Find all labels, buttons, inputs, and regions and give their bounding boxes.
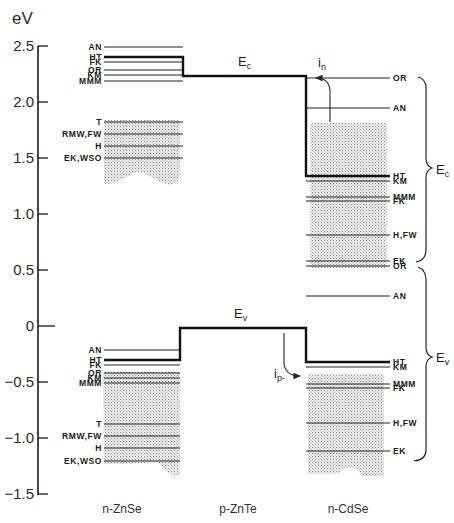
band-diagram-svg: eV 2.52.01.51.00.50−0.5−1.0−1.5 ANHTFKOR… xyxy=(0,0,454,523)
band-diagram: eV 2.52.01.51.00.50−0.5−1.0−1.5 ANHTFKOR… xyxy=(0,0,454,523)
material-label-cdse: n-CdSe xyxy=(328,502,369,516)
y-axis-tick-label: 0 xyxy=(26,317,34,334)
ev-brace xyxy=(414,267,432,461)
energy-level-label: EK,WSO xyxy=(64,456,102,466)
electron-current-arrow xyxy=(316,78,330,122)
ec-brace-label: Ec xyxy=(436,162,450,179)
y-axis-tick-label: 2.0 xyxy=(13,93,34,110)
energy-level-label: H,FW xyxy=(393,230,417,240)
y-axis-tick-label: −1.5 xyxy=(4,485,34,502)
energy-level-label: AN xyxy=(393,103,406,113)
ev-label: Ev xyxy=(234,306,248,323)
y-axis-ticks: 2.52.01.51.00.50−0.5−1.0−1.5 xyxy=(4,37,55,502)
shaded-cdse-lower xyxy=(308,374,384,476)
energy-level-label: AN xyxy=(89,42,102,52)
ec-brace xyxy=(416,77,432,262)
energy-level-label: KM xyxy=(393,176,407,186)
energy-level-label: FK xyxy=(393,383,406,393)
energy-level-label: MMM xyxy=(79,378,102,388)
ip-label: ip- xyxy=(274,366,285,383)
valence-band-edge xyxy=(104,328,390,362)
energy-level-label: T xyxy=(96,117,102,127)
energy-level-label: H xyxy=(95,141,102,151)
energy-level-label: RMW,FW xyxy=(62,431,102,441)
energy-level-label: OR xyxy=(393,261,407,271)
energy-level-label: EK,WSO xyxy=(64,153,102,163)
y-axis-tick-label: −0.5 xyxy=(4,373,34,390)
shaded-cdse-upper xyxy=(310,123,387,268)
material-label-znte: p-ZnTe xyxy=(219,502,257,516)
energy-level-label: T xyxy=(96,419,102,429)
in-label: in xyxy=(318,55,326,72)
energy-level-label: EK xyxy=(393,446,406,456)
ev-brace-label: Ev xyxy=(436,350,450,367)
axis-unit-label: eV xyxy=(12,9,33,28)
energy-level-label: MMM xyxy=(79,76,102,86)
y-axis-tick-label: 1.0 xyxy=(13,205,34,222)
y-axis: 2.52.01.51.00.50−0.5−1.0−1.5 xyxy=(4,37,55,502)
y-axis-tick-label: −1.0 xyxy=(4,429,34,446)
y-axis-tick-label: 1.5 xyxy=(13,149,34,166)
energy-level-label: H xyxy=(95,443,102,453)
energy-level-label: KM xyxy=(393,362,407,372)
shaded-znse-upper xyxy=(104,120,180,184)
energy-level-label: OR xyxy=(393,73,407,83)
hole-current-arrow xyxy=(284,333,300,376)
energy-level-label: RMW,FW xyxy=(62,129,102,139)
energy-level-label: H,FW xyxy=(393,418,417,428)
y-axis-tick-label: 0.5 xyxy=(13,261,34,278)
y-axis-tick-label: 2.5 xyxy=(13,37,34,54)
material-label-znse: n-ZnSe xyxy=(102,502,142,516)
energy-level-label: FK xyxy=(393,196,406,206)
ec-label: Ec xyxy=(238,54,252,71)
energy-level-label: AN xyxy=(393,291,406,301)
energy-level-label: AN xyxy=(89,345,102,355)
